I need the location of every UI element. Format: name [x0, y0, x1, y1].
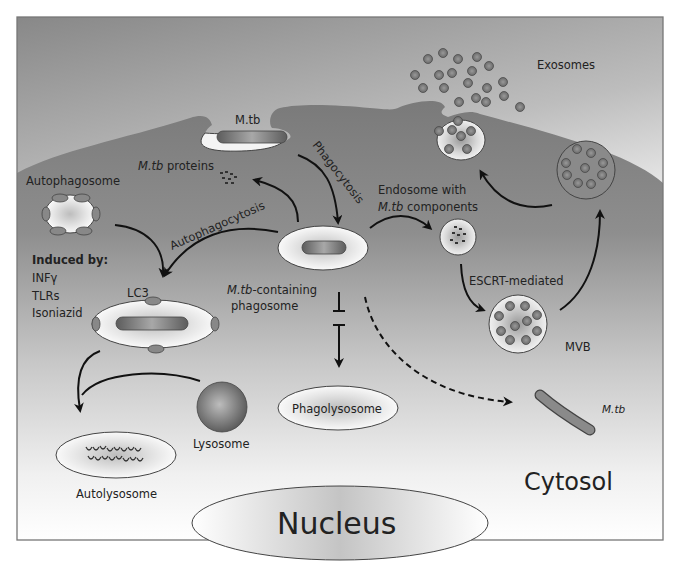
- label-mtb-proteins: M.tb proteins: [138, 159, 214, 173]
- endosome: [440, 219, 476, 255]
- label-autolysosome: Autolysosome: [76, 487, 157, 501]
- label-exosomes: Exosomes: [537, 58, 595, 72]
- inducer-isoniazid: Isoniazid: [32, 306, 82, 320]
- label-phagosome-line2: phagosome: [231, 299, 298, 313]
- label-mtb-cytosol: M.tb: [602, 403, 626, 415]
- label-induced-by: Induced by:: [32, 253, 108, 267]
- inducer-tlrs: TLRs: [31, 289, 59, 303]
- label-cytosol: Cytosol: [524, 468, 613, 496]
- label-phagolysosome: Phagolysosome: [292, 402, 382, 416]
- label-phagosome-line1: M.tb-containing: [227, 283, 317, 297]
- label-autophagosome: Autophagosome: [26, 174, 120, 188]
- mtb-containing-phagosome: [278, 226, 368, 270]
- label-lysosome: Lysosome: [193, 437, 250, 451]
- inducer-infg: INFγ: [32, 271, 58, 285]
- label-nucleus: Nucleus: [277, 506, 396, 541]
- label-mvb: MVB: [565, 340, 591, 354]
- mvb-at-membrane: [557, 141, 615, 199]
- label-endosome-line2: M.tb components: [378, 200, 478, 214]
- label-lc3: LC3: [127, 286, 149, 300]
- label-mtb-top: M.tb: [235, 113, 260, 127]
- mtb-exosome-pathway-diagram: M.tb Phagocytosis M.tb proteins Autophag…: [0, 0, 690, 586]
- mtb-bacterium-top: [217, 131, 287, 143]
- autolysosome: [56, 432, 176, 478]
- label-escrt-mediated: ESCRT-mediated: [469, 274, 564, 288]
- mvb: [489, 295, 547, 353]
- label-endosome-line1: Endosome with: [378, 183, 466, 197]
- lysosome: [197, 382, 247, 432]
